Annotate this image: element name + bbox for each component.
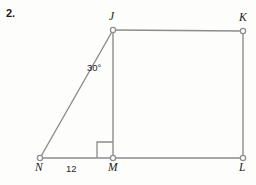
angle-measure-label-J: 30° (87, 62, 101, 73)
vertex-point-J (110, 27, 115, 32)
figure-vertices (37, 27, 245, 160)
vertex-label-M: M (108, 161, 118, 173)
segment-JK-line (113, 30, 243, 31)
vertex-point-L (240, 155, 245, 160)
figure-edges (40, 30, 243, 158)
geometry-figure: 2. J K L M N 30° 12 (0, 0, 256, 185)
vertex-point-K (240, 28, 245, 33)
geometry-drawing (0, 0, 256, 185)
vertex-point-N (37, 155, 42, 160)
vertex-label-N: N (35, 161, 43, 173)
side-length-label-NM: 12 (66, 163, 77, 174)
vertex-point-M (110, 155, 115, 160)
vertex-label-J: J (109, 10, 114, 22)
right-angle-marker-icon (97, 142, 113, 158)
segment-NJ-line (40, 30, 113, 158)
vertex-label-K: K (239, 11, 247, 23)
vertex-label-L: L (239, 161, 245, 173)
